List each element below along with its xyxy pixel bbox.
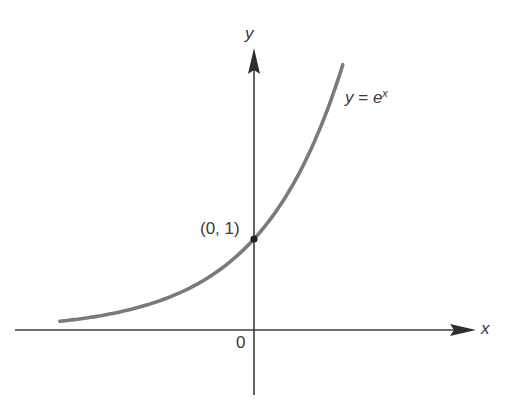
equation-exponent: x [382,87,388,99]
equation-equals: = [354,88,373,107]
origin-label: 0 [236,334,245,351]
exponential-graph [0,0,509,405]
equation-lhs: y [345,88,354,107]
equation-base: e [373,88,382,107]
x-axis-label: x [481,320,490,337]
y-axis-label: y [245,25,254,42]
point-0-1 [250,235,257,242]
exponential-curve [60,65,343,322]
point-label: (0, 1) [200,220,240,237]
curve-equation-label: y = ex [345,88,388,106]
